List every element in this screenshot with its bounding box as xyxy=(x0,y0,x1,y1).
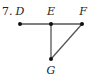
point-e xyxy=(49,22,53,26)
point-g xyxy=(49,57,53,61)
label-g: G xyxy=(47,64,56,77)
segment-fg xyxy=(51,24,82,59)
label-f: F xyxy=(78,5,87,18)
point-f xyxy=(80,22,84,26)
geometry-diagram: 7. D E F G xyxy=(0,0,91,79)
label-e: E xyxy=(46,5,55,18)
point-d xyxy=(18,22,22,26)
problem-number: 7. xyxy=(2,5,13,18)
label-d: D xyxy=(15,5,25,18)
